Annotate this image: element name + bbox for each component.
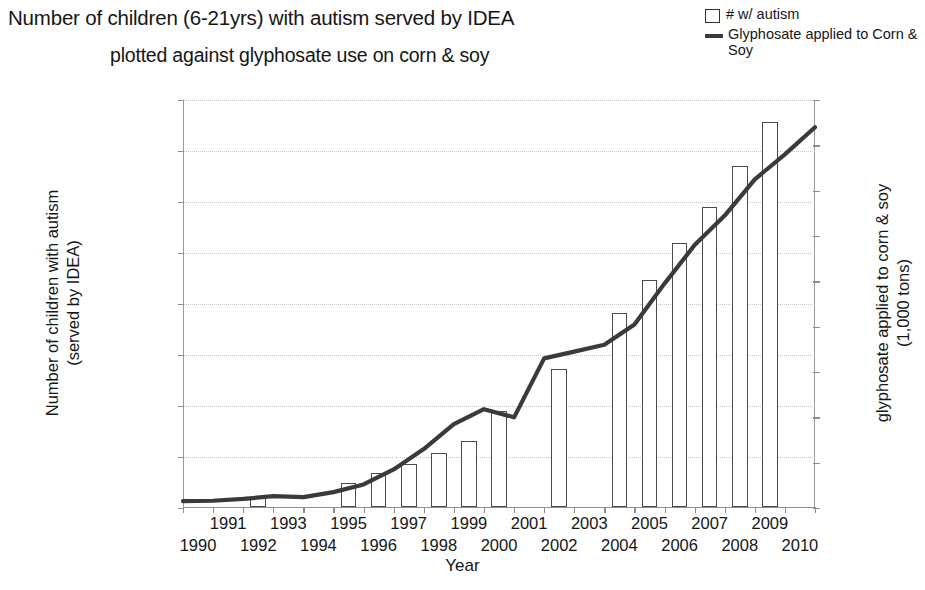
x-axis-tick-label-1993: 1993 <box>258 514 318 533</box>
x-axis-tick-label-2003: 2003 <box>559 514 619 533</box>
x-axis-tick-label-1990: 1990 <box>168 536 228 555</box>
line-series <box>183 100 815 508</box>
x-axis-tick-label-2004: 2004 <box>589 536 649 555</box>
x-axis-tick-label-1995: 1995 <box>319 514 379 533</box>
x-axis-tick-label-2007: 2007 <box>680 514 740 533</box>
x-axis-tick-label-2006: 2006 <box>650 536 710 555</box>
plot-area: 0500001000001500002000002500003000003500… <box>183 100 815 508</box>
x-axis-tick-label-2009: 2009 <box>740 514 800 533</box>
x-axis-tick-label-2005: 2005 <box>619 514 679 533</box>
x-axis-tick-label-1999: 1999 <box>439 514 499 533</box>
chart-title-line-1: Number of children (6-21yrs) with autism… <box>8 6 514 30</box>
legend-label-autism: # w/ autism <box>726 6 799 22</box>
chart-title-line-2: plotted against glyphosate use on corn &… <box>110 44 489 67</box>
x-axis-tick-label-1991: 1991 <box>198 514 258 533</box>
x-axis-tick-label-1996: 1996 <box>349 536 409 555</box>
chart-figure: Number of children (6-21yrs) with autism… <box>0 0 925 590</box>
x-axis-tick-label-1998: 1998 <box>409 536 469 555</box>
y-axis-left-title: Number of children with autism(served by… <box>42 178 84 428</box>
x-axis-title: Year <box>0 556 925 576</box>
chart-legend: # w/ autism Glyphosate applied to Corn &… <box>705 6 920 61</box>
legend-item-autism: # w/ autism <box>705 6 920 23</box>
y-axis-right-title: glyphosate applied to corn & soy(1,000 t… <box>872 178 914 428</box>
open-square-icon <box>705 9 720 23</box>
line-swatch-icon <box>705 34 723 38</box>
x-axis-tick-label-2002: 2002 <box>529 536 589 555</box>
x-axis-tick-label-1994: 1994 <box>288 536 348 555</box>
x-axis-tick-label-1992: 1992 <box>228 536 288 555</box>
legend-label-glyphosate: Glyphosate applied to Corn & Soy <box>728 26 920 58</box>
x-axis-tick-label-2008: 2008 <box>710 536 770 555</box>
legend-item-glyphosate: Glyphosate applied to Corn & Soy <box>705 26 920 58</box>
x-axis-tick-label-2010: 2010 <box>770 536 830 555</box>
x-axis-tickmark <box>815 507 816 513</box>
x-axis-tick-label-2001: 2001 <box>499 514 559 533</box>
x-axis-tick-label-2000: 2000 <box>469 536 529 555</box>
x-axis-tick-label-1997: 1997 <box>379 514 439 533</box>
